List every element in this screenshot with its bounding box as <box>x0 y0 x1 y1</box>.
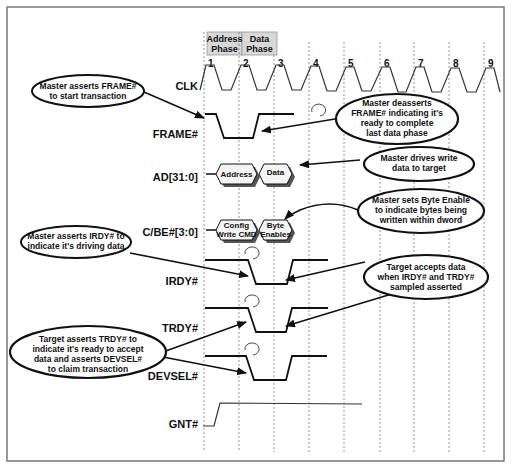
svg-text:to start transaction: to start transaction <box>50 91 127 101</box>
phase-address-line2: Phase <box>211 44 238 54</box>
gnt-waveform <box>203 403 362 426</box>
clock-number-9: 9 <box>488 58 494 69</box>
sample-loop-icon-devsel <box>245 343 259 355</box>
phase-data-line2: Phase <box>246 44 273 54</box>
frame-waveform <box>205 114 294 138</box>
cbe-be-line2: Enables <box>260 230 291 239</box>
trdy-waveform <box>205 308 328 332</box>
svg-text:when IRDY# and TRDY#: when IRDY# and TRDY# <box>377 272 475 282</box>
svg-text:Target asserts TRDY# to: Target asserts TRDY# to <box>39 334 137 344</box>
svg-text:FRAME# indicating it's: FRAME# indicating it's <box>351 108 443 118</box>
callout-frame-assert: Master asserts FRAME# to start transacti… <box>32 75 144 107</box>
signal-label-irdy: IRDY# <box>166 275 198 287</box>
cbe-cmd-line2: Write CMD <box>216 230 257 239</box>
signal-label-trdy: TRDY# <box>162 322 198 334</box>
phase-data-line1: Data <box>250 34 271 44</box>
clock-number-8: 8 <box>453 58 459 69</box>
svg-text:last data phase: last data phase <box>366 128 428 138</box>
clock-number-4: 4 <box>313 58 319 69</box>
svg-text:indicate it's ready to accept: indicate it's ready to accept <box>32 344 143 354</box>
callout-byte-enable: Master sets Byte Enable to indicate byte… <box>358 189 484 233</box>
callout-drive-data: Master drives write data to target <box>364 147 474 181</box>
signal-label-clk: CLK <box>175 80 198 92</box>
signal-label-gnt: GNT# <box>169 418 198 430</box>
cbe-be-line1: Byte <box>267 221 285 230</box>
svg-text:data and asserts DEVSEL#: data and asserts DEVSEL# <box>34 354 142 364</box>
svg-text:Master sets Byte Enable: Master sets Byte Enable <box>372 195 470 205</box>
svg-text:Master asserts FRAME#: Master asserts FRAME# <box>40 81 137 91</box>
svg-text:to claim transaction: to claim transaction <box>48 364 128 374</box>
svg-text:data to target: data to target <box>392 163 446 173</box>
clock-number-3: 3 <box>278 58 284 69</box>
cbe-bus: Config Write CMD Byte Enables <box>206 220 295 243</box>
timing-diagram: Address Phase Data Phase 1 2 3 4 5 6 7 8… <box>0 0 513 472</box>
sample-loop-icon-frame <box>312 104 326 116</box>
clock-number-2: 2 <box>243 58 249 69</box>
phase-address-line1: Address <box>206 34 242 44</box>
signal-label-ad: AD[31:0] <box>153 171 199 183</box>
cbe-cmd-line1: Config <box>224 221 249 230</box>
signal-labels: CLK FRAME# AD[31:0] C/BE#[3:0] IRDY# TRD… <box>142 80 198 430</box>
svg-text:written within dword: written within dword <box>379 215 463 225</box>
callout-irdy-assert: Master asserts IRDY# to indicate it's dr… <box>21 226 131 258</box>
signal-label-frame: FRAME# <box>153 128 198 140</box>
ad-address-value: Address <box>220 170 253 179</box>
callout-trdy-assert: Target asserts TRDY# to indicate it's re… <box>10 326 166 378</box>
svg-text:ready to complete: ready to complete <box>361 118 434 128</box>
phase-header: Address Phase Data Phase <box>206 32 277 55</box>
sample-loop-icon-trdy <box>245 295 259 307</box>
svg-text:Target accepts data: Target accepts data <box>386 262 465 272</box>
ad-bus: Address Data <box>206 164 295 187</box>
sample-loop-icon-irdy <box>245 247 259 259</box>
svg-text:Master drives write: Master drives write <box>380 153 457 163</box>
signal-label-devsel: DEVSEL# <box>148 370 198 382</box>
clk-waveform <box>200 65 500 92</box>
svg-text:Master deasserts: Master deasserts <box>362 98 432 108</box>
signal-label-cbe: C/BE#[3:0] <box>142 226 198 238</box>
svg-text:sampled asserted: sampled asserted <box>390 282 462 292</box>
clock-number-1: 1 <box>208 58 214 69</box>
callout-frame-deassert: Master deasserts FRAME# indicating it's … <box>336 94 458 144</box>
ad-data-value: Data <box>267 168 285 177</box>
svg-text:Master asserts IRDY# to: Master asserts IRDY# to <box>27 231 124 241</box>
callout-target-accepts: Target accepts data when IRDY# and TRDY#… <box>364 255 488 299</box>
svg-text:indicate it's driving data: indicate it's driving data <box>28 241 125 251</box>
svg-text:to indicate bytes being: to indicate bytes being <box>375 205 467 215</box>
